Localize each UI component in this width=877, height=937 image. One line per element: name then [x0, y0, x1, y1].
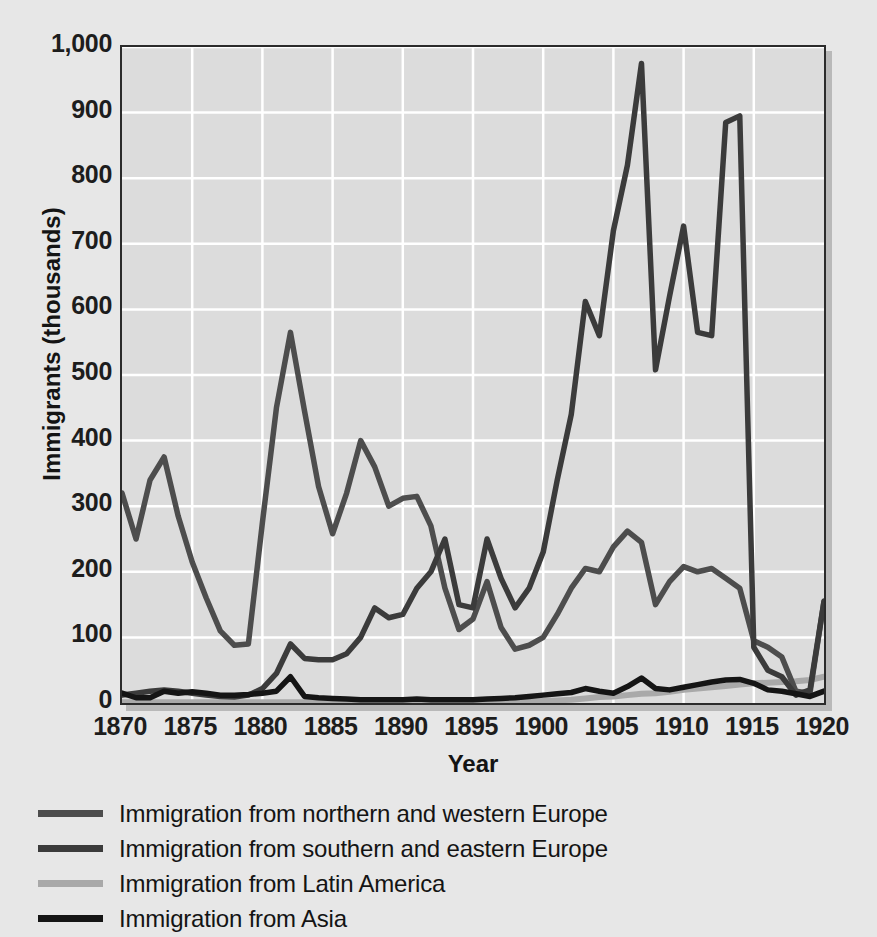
legend-item: Immigration from Asia	[38, 901, 838, 936]
chart-legend: Immigration from northern and western Eu…	[38, 796, 838, 936]
plot-area	[120, 45, 826, 705]
plot-wrapper	[120, 45, 826, 705]
legend-item-label: Immigration from Latin America	[119, 870, 445, 898]
legend-color-swatch	[38, 810, 103, 817]
y-axis-tick-label: 0	[12, 685, 112, 714]
y-axis-title: Immigrants (thousands)	[38, 34, 66, 654]
legend-color-swatch	[38, 880, 103, 887]
chart-svg	[122, 47, 824, 703]
x-axis-tick-label: 1920	[767, 712, 877, 741]
legend-item: Immigration from southern and eastern Eu…	[38, 831, 838, 866]
legend-item: Immigration from northern and western Eu…	[38, 796, 838, 831]
legend-item-label: Immigration from southern and eastern Eu…	[119, 835, 608, 863]
legend-item-label: Immigration from northern and western Eu…	[119, 800, 608, 828]
legend-color-swatch	[38, 915, 103, 922]
legend-item: Immigration from Latin America	[38, 866, 838, 901]
immigration-line-chart-figure: 01002003004005006007008009001,000 Immigr…	[0, 0, 877, 937]
x-axis-tick-labels: 1870187518801885189018951900190519101915…	[120, 712, 826, 746]
legend-color-swatch	[38, 845, 103, 852]
legend-item-label: Immigration from Asia	[119, 905, 347, 933]
x-axis-title: Year	[120, 750, 826, 778]
